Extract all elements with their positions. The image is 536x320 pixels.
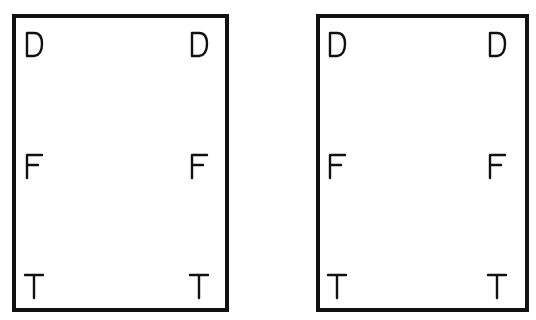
label-t-bottom-left: T [24, 272, 44, 300]
left-rectangle: D D F F T T [12, 14, 229, 312]
label-d-top-left: D [24, 30, 44, 58]
label-f-middle-left: F [24, 152, 44, 180]
label-t-bottom-right: T [189, 272, 209, 300]
label-f-middle-right: F [189, 152, 209, 180]
label-t-bottom-left: T [327, 272, 347, 300]
label-d-top-right: D [487, 30, 507, 58]
label-t-bottom-right: T [487, 272, 507, 300]
label-d-top-right: D [189, 30, 209, 58]
label-d-top-left: D [327, 30, 347, 58]
label-f-middle-right: F [487, 152, 507, 180]
label-f-middle-left: F [327, 152, 347, 180]
right-rectangle: D D F F T T [316, 14, 529, 312]
